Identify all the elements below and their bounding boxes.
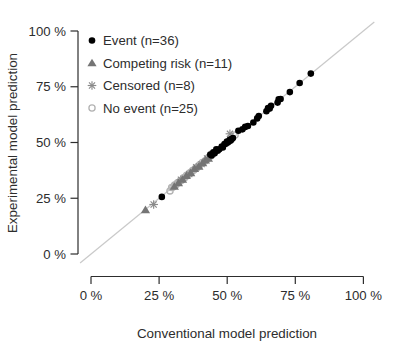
filled-circle-marker [287, 89, 294, 96]
y-tick-label: 75 % [36, 79, 66, 94]
data-point [308, 70, 315, 77]
data-point [149, 200, 158, 209]
calibration-scatter-figure: 0 %25 %50 %75 %100 %0 %25 %50 %75 %100 %… [0, 0, 398, 355]
y-tick-label: 25 % [36, 191, 66, 206]
x-tick-label: 0 % [80, 288, 103, 303]
legend-label: Event (n=36) [103, 33, 179, 48]
filled-circle-marker [268, 102, 275, 109]
filled-circle-marker [255, 113, 262, 120]
scatter-plot: 0 %25 %50 %75 %100 %0 %25 %50 %75 %100 %… [0, 0, 398, 355]
plot-layer: 0 %25 %50 %75 %100 %0 %25 %50 %75 %100 %… [29, 22, 383, 302]
legend-item: No event (n=25) [89, 101, 198, 116]
data-point [255, 113, 262, 120]
x-tick-label: 100 % [345, 288, 383, 303]
legend-label: Competing risk (n=11) [103, 56, 232, 71]
legend-marker-open-circle [89, 105, 95, 111]
filled-circle-marker [230, 135, 237, 142]
data-point [268, 102, 275, 109]
legend-item: Event (n=36) [89, 33, 179, 48]
triangle-marker [87, 59, 96, 67]
x-tick-label: 25 % [144, 288, 174, 303]
data-point [277, 96, 284, 103]
filled-circle-marker [159, 194, 166, 201]
data-point [159, 194, 166, 201]
y-tick-label: 50 % [36, 135, 66, 150]
y-tick-label: 100 % [29, 24, 67, 39]
filled-circle-marker [296, 80, 303, 87]
data-point [245, 123, 252, 130]
filled-circle-marker [89, 37, 96, 44]
y-tick-label: 0 % [43, 247, 66, 262]
x-tick-label: 50 % [212, 288, 242, 303]
filled-circle-marker [245, 123, 252, 130]
legend-item: Censored (n=8) [88, 78, 195, 93]
legend-label: No event (n=25) [103, 101, 198, 116]
legend-marker-filled-circle [89, 37, 96, 44]
legend-marker-asterisk [88, 81, 97, 90]
data-point [296, 80, 303, 87]
x-tick-label: 75 % [280, 288, 310, 303]
filled-circle-marker [277, 96, 284, 103]
data-point [287, 89, 294, 96]
y-axis-title: Experimental model prediction [5, 53, 20, 233]
x-axis-title: Conventional model prediction [137, 326, 317, 341]
open-circle-marker [89, 105, 95, 111]
legend-label: Censored (n=8) [103, 78, 195, 93]
legend-marker-filled-triangle [87, 59, 96, 67]
filled-circle-marker [308, 70, 315, 77]
legend-item: Competing risk (n=11) [87, 56, 232, 71]
data-point [230, 135, 237, 142]
